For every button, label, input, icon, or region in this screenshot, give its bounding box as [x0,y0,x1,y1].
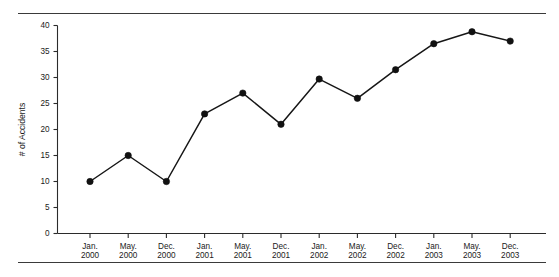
data-point-9 [431,41,437,47]
x-tick-label-6: Jan.2002 [310,242,329,260]
data-point-0 [87,178,93,184]
series-markers [87,29,514,185]
data-point-1 [125,152,131,158]
series-line [90,32,510,182]
x-tick-label-11: Dec.2003 [501,242,520,260]
accidents-line-chart-figure: 0510152025303540 # of Accidents Jan.2000… [0,0,559,277]
data-point-3 [201,111,207,117]
y-tick-label-0: 0 [45,229,50,238]
y-tick-label-20: 20 [40,125,50,134]
y-tick-label-40: 40 [40,21,50,30]
data-point-4 [240,90,246,96]
x-tick-label-5: Dec.2001 [272,242,291,260]
x-tick-labels: Jan.2000May.2000Dec.2000Jan.2001May.2001… [81,242,520,260]
data-point-6 [316,76,322,82]
y-tick-label-30: 30 [40,73,50,82]
x-tick-marks [90,234,510,239]
data-point-10 [469,29,475,35]
data-point-8 [392,67,398,73]
data-point-2 [163,178,169,184]
x-tick-label-4: May.2001 [234,242,253,260]
y-tick-label-15: 15 [40,151,50,160]
y-axis: 0510152025303540 # of Accidents [17,21,58,238]
chart-plot-area: 0510152025303540 # of Accidents Jan.2000… [0,0,559,277]
y-tick-label-35: 35 [40,47,50,56]
data-series-accidents [87,29,514,185]
x-tick-label-1: May.2000 [119,242,138,260]
data-point-7 [354,95,360,101]
x-tick-label-2: Dec.2000 [157,242,176,260]
x-tick-label-7: May.2002 [348,242,367,260]
y-tick-label-5: 5 [45,203,50,212]
data-point-5 [278,121,284,127]
x-tick-label-3: Jan.2001 [195,242,214,260]
y-axis-label: # of Accidents [17,103,27,157]
x-tick-label-8: Dec.2002 [386,242,405,260]
y-tick-labels: 0510152025303540 [40,21,50,238]
data-point-11 [507,38,513,44]
y-tick-label-10: 10 [40,177,50,186]
y-tick-marks [54,26,58,234]
x-tick-label-0: Jan.2000 [81,242,100,260]
y-tick-label-25: 25 [40,99,50,108]
x-tick-label-9: Jan.2003 [425,242,444,260]
x-axis: Jan.2000May.2000Dec.2000Jan.2001May.2001… [58,234,547,260]
x-tick-label-10: May.2003 [463,242,482,260]
